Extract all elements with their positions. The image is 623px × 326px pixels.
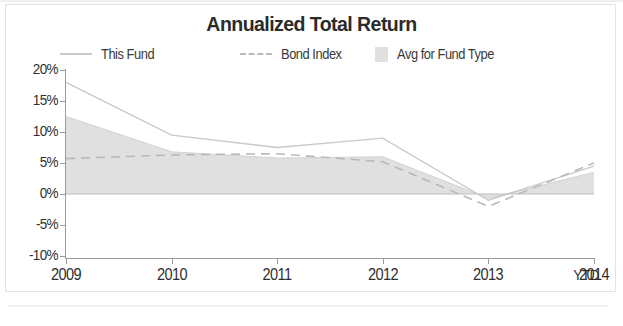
y-axis-tick	[60, 70, 66, 71]
y-axis-tick	[60, 132, 66, 133]
y-axis-tick	[60, 256, 66, 257]
y-axis-tick	[60, 163, 66, 164]
y-axis-tick	[60, 101, 66, 102]
x-axis-tick-label: 2013	[452, 266, 525, 284]
x-axis-tick-label: 2010	[135, 266, 208, 284]
y-axis-tick	[60, 194, 66, 195]
x-axis-tick	[172, 258, 173, 264]
x-axis-tick	[66, 258, 67, 264]
x-axis-ytd-suffix: YTD	[573, 266, 599, 283]
x-axis-tick-label: 2011	[241, 266, 314, 284]
x-axis-tick	[594, 258, 595, 264]
x-axis-tick	[277, 258, 278, 264]
x-axis-tick	[383, 258, 384, 264]
x-axis-tick-label: 2009	[30, 266, 103, 284]
x-axis-tick-label: 2012	[346, 266, 419, 284]
y-axis-tick	[60, 225, 66, 226]
x-axis-tick	[488, 258, 489, 264]
